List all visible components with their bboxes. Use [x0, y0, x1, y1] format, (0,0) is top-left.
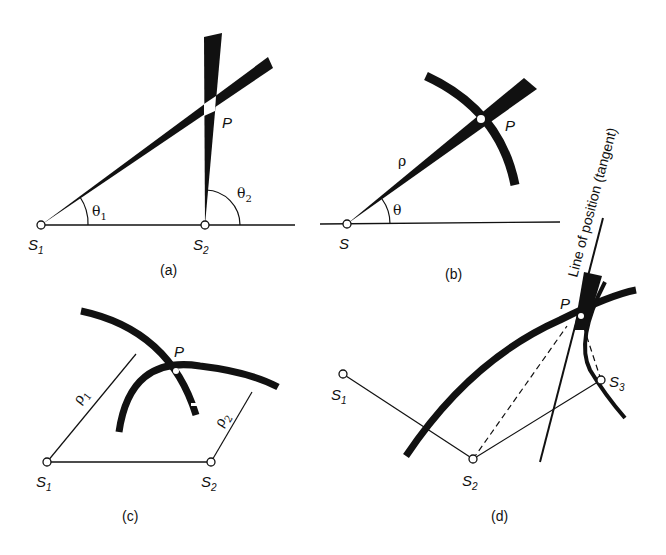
- caption-a: (a): [160, 262, 177, 278]
- label-p: P: [505, 117, 515, 134]
- arc-gap: [191, 403, 199, 406]
- label-p: P: [560, 295, 570, 312]
- radius-rho2: [211, 392, 252, 462]
- label-s: S: [339, 235, 349, 252]
- caption-d: (d): [491, 508, 508, 524]
- panel-c: S1 S2 P ρ1 ρ2 (c): [36, 311, 278, 524]
- range-arc-s2: [406, 290, 636, 456]
- station-s2: [207, 458, 215, 466]
- panel-b: S P ρ θ (b): [320, 76, 560, 282]
- station-s2: [469, 455, 477, 463]
- caption-c: (c): [122, 508, 138, 524]
- angle-arc-theta2: [206, 190, 240, 225]
- station-s: [343, 220, 351, 228]
- label-s1: S1: [331, 386, 347, 406]
- label-s2: S2: [201, 473, 217, 493]
- station-s1: [37, 221, 45, 229]
- baseline: [320, 222, 560, 224]
- intersection-p: [578, 313, 584, 319]
- range-arc-s2: [119, 365, 278, 432]
- angle-arc-theta1: [80, 197, 88, 225]
- label-s2: S2: [462, 472, 478, 492]
- label-s2: S2: [193, 236, 209, 256]
- label-theta2: θ2: [237, 185, 252, 204]
- label-tangent: Line of position (tangent): [564, 126, 619, 279]
- station-s2: [201, 221, 209, 229]
- line-s1-s2: [343, 374, 473, 459]
- station-s1: [43, 458, 51, 466]
- intersection-p: [173, 368, 179, 374]
- label-s1: S1: [36, 473, 52, 493]
- station-s3: [597, 376, 605, 384]
- intersection-p: [477, 115, 485, 123]
- panel-d: S1 S2 S3 P Line of position (tangent) (d…: [331, 126, 636, 524]
- panel-a: S1 S2 P θ1 θ2 (a): [28, 33, 295, 278]
- label-rho: ρ: [398, 153, 406, 169]
- position-fixing-diagram: S1 S2 P θ1 θ2 (a) S P ρ θ (b) S1 S2 P ρ1…: [0, 0, 666, 555]
- label-theta1: θ1: [92, 203, 107, 222]
- line-s2-s3: [473, 380, 601, 459]
- bearing-band-s2: [204, 33, 222, 225]
- label-rho1: ρ1: [70, 385, 94, 408]
- label-p: P: [222, 114, 232, 131]
- caption-b: (b): [445, 266, 462, 282]
- station-s1: [339, 370, 347, 378]
- label-s3: S3: [609, 373, 625, 393]
- label-p: P: [174, 343, 184, 360]
- label-theta: θ: [393, 202, 401, 218]
- dashed-s2-p: [473, 326, 567, 459]
- label-s1: S1: [28, 236, 44, 256]
- angle-arc-theta: [382, 199, 390, 224]
